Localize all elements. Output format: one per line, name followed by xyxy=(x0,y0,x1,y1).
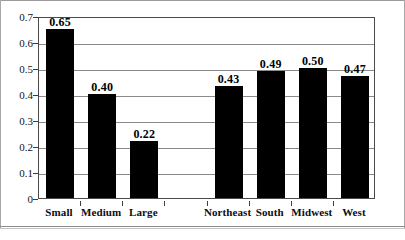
bar xyxy=(341,76,369,198)
y-tick-mark xyxy=(33,199,38,200)
page-rule-secondary xyxy=(0,228,405,229)
y-tick-label: 0.1 xyxy=(0,167,33,179)
y-tick-label: 0.7 xyxy=(0,11,33,23)
x-axis: SmallMediumLargeNortheastSouthMidwestWes… xyxy=(38,201,375,223)
plot-area: 0.650.400.220.430.490.500.47 xyxy=(38,17,375,199)
bar xyxy=(130,141,158,198)
chart-figure: 00.10.20.30.40.50.60.7 0.650.400.220.430… xyxy=(0,0,405,240)
x-tick-label: South xyxy=(256,206,284,218)
bar xyxy=(46,29,74,198)
bar xyxy=(299,68,327,198)
x-tick-label: Midwest xyxy=(291,206,332,218)
y-tick-label: 0.3 xyxy=(0,115,33,127)
bar-value-label: 0.22 xyxy=(133,127,155,142)
bar-series: 0.650.400.220.430.490.500.47 xyxy=(39,18,374,198)
bar-value-label: 0.40 xyxy=(91,80,113,95)
x-tick-mark xyxy=(164,201,165,206)
bar-value-label: 0.50 xyxy=(302,54,324,69)
x-tick-mark xyxy=(333,201,334,206)
bar xyxy=(215,86,243,198)
x-tick-mark xyxy=(80,201,81,206)
y-tick-label: 0.6 xyxy=(0,37,33,49)
page-border-top xyxy=(0,0,405,1)
x-tick-label: Small xyxy=(45,206,72,218)
y-tick-label: 0 xyxy=(0,193,33,205)
bar-value-label: 0.43 xyxy=(218,72,240,87)
y-tick-label: 0.2 xyxy=(0,141,33,153)
x-tick-mark xyxy=(249,201,250,206)
page-rule xyxy=(0,226,405,227)
x-tick-label: Large xyxy=(129,206,158,218)
bar xyxy=(88,94,116,198)
x-tick-label: West xyxy=(342,206,366,218)
bar xyxy=(257,71,285,198)
x-tick-mark xyxy=(207,201,208,206)
y-tick-label: 0.4 xyxy=(0,89,33,101)
x-tick-mark xyxy=(291,201,292,206)
bar-value-label: 0.47 xyxy=(344,62,366,77)
bar-value-label: 0.49 xyxy=(260,57,282,72)
x-tick-label: Medium xyxy=(81,206,121,218)
x-tick-label: Northeast xyxy=(204,206,251,218)
bar-value-label: 0.65 xyxy=(49,15,71,30)
x-tick-mark xyxy=(122,201,123,206)
y-tick-label: 0.5 xyxy=(0,63,33,75)
